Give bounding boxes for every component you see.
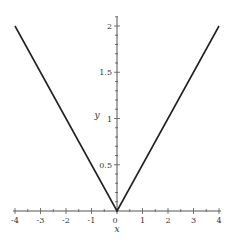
x-tick-label: 3 <box>191 216 196 225</box>
chart-plot: -4-3-2-101234 0.511.52 x y <box>0 0 236 243</box>
x-tick-label: -1 <box>88 216 96 225</box>
x-tick-label: 4 <box>216 216 221 225</box>
x-tick-label: 2 <box>165 216 170 225</box>
x-tick-label: -4 <box>11 216 19 225</box>
x-tick-label: -3 <box>37 216 45 225</box>
x-tick-label: -2 <box>62 216 70 225</box>
y-tick-label: 1 <box>107 115 112 124</box>
y-axis-label: y <box>93 110 100 120</box>
x-axis-label: x <box>114 224 119 234</box>
y-tick-label: 0.5 <box>99 161 112 170</box>
x-tick-label: 1 <box>140 216 145 225</box>
y-axis: 0.511.52 <box>99 17 120 211</box>
y-tick-label: 1.5 <box>99 68 112 77</box>
y-tick-label: 2 <box>107 22 112 31</box>
